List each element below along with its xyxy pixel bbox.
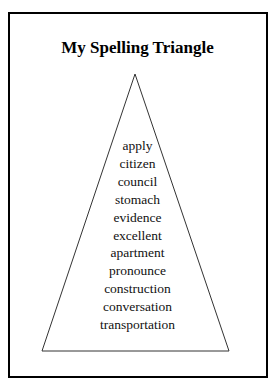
word-item: apply <box>0 137 275 155</box>
word-item: evidence <box>0 209 275 227</box>
word-item: construction <box>0 280 275 298</box>
word-item: transportation <box>0 316 275 334</box>
word-item: conversation <box>0 298 275 316</box>
word-item: stomach <box>0 191 275 209</box>
word-item: council <box>0 173 275 191</box>
word-item: citizen <box>0 155 275 173</box>
word-item: apartment <box>0 244 275 262</box>
word-list: apply citizen council stomach evidence e… <box>0 137 275 334</box>
word-item: pronounce <box>0 262 275 280</box>
word-item: excellent <box>0 227 275 245</box>
